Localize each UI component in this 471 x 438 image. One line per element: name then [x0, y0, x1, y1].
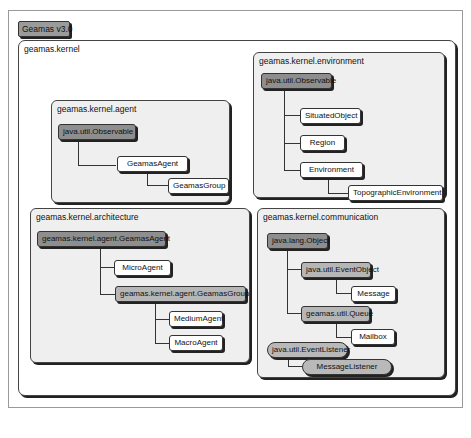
class-node[interactable]: geamas.kernel.agent.GeamasGroup: [115, 286, 246, 302]
inheritance-line: [100, 294, 115, 295]
package-title: geamas.kernel.communication: [263, 212, 378, 222]
inheritance-line: [147, 185, 168, 186]
package-communication: geamas.kernel.communication java.lang.Ob…: [257, 208, 445, 378]
class-node[interactable]: TopographicEnvironment: [348, 185, 443, 201]
inheritance-line: [328, 193, 348, 194]
class-node[interactable]: geamas.util.Queue: [301, 306, 370, 322]
inheritance-line: [336, 293, 351, 294]
interface-node[interactable]: MessageListener: [302, 359, 392, 375]
class-node[interactable]: GeamasGroup: [168, 178, 229, 194]
inheritance-line: [284, 115, 300, 116]
inheritance-line: [284, 89, 285, 171]
class-node[interactable]: java.util.EventObject: [301, 262, 371, 278]
inheritance-line: [288, 366, 302, 367]
inheritance-line: [155, 343, 169, 344]
inheritance-line: [284, 170, 300, 171]
inheritance-line: [284, 143, 300, 144]
inheritance-line: [287, 269, 301, 270]
package-title: geamas.kernel.environment: [259, 56, 364, 66]
inheritance-line: [100, 267, 114, 268]
package-architecture: geamas.kernel.architecture geamas.kernel…: [30, 208, 250, 363]
package-title: geamas.kernel.agent: [57, 104, 136, 114]
package-title: geamas.kernel: [24, 44, 80, 54]
inheritance-line: [78, 165, 116, 166]
interface-node[interactable]: java.util.EventListener: [267, 342, 348, 358]
inheritance-line: [336, 337, 351, 338]
inheritance-line: [287, 247, 288, 314]
inheritance-line: [78, 138, 79, 165]
class-node[interactable]: MediumAgent: [169, 311, 223, 327]
class-node[interactable]: java.util.Observable: [261, 73, 332, 89]
package-environment: geamas.kernel.environment java.util.Obse…: [253, 52, 445, 198]
inheritance-line: [155, 319, 169, 320]
class-node[interactable]: Region: [300, 135, 345, 151]
package-title: geamas.kernel.architecture: [36, 212, 139, 222]
inheritance-line: [287, 313, 301, 314]
class-node[interactable]: GeamasAgent: [117, 156, 188, 172]
class-node[interactable]: Mailbox: [351, 329, 395, 345]
class-node[interactable]: SituatedObject: [300, 108, 361, 124]
inheritance-line: [328, 177, 329, 194]
class-node[interactable]: java.util.Observable: [58, 124, 136, 140]
inheritance-line: [100, 246, 101, 294]
diagram-title: Geamas v3.0: [18, 21, 70, 37]
inheritance-line: [155, 302, 156, 344]
package-agent: geamas.kernel.agent java.util.Observable…: [51, 100, 230, 203]
class-node[interactable]: java.lang.Object: [267, 233, 328, 249]
class-node[interactable]: MicroAgent: [114, 260, 171, 276]
class-node[interactable]: Environment: [300, 162, 363, 178]
class-node[interactable]: geamas.kernel.agent.GeamasAgent: [37, 231, 166, 247]
inheritance-line: [336, 277, 337, 293]
inheritance-line: [336, 321, 337, 337]
class-node[interactable]: MacroAgent: [169, 335, 223, 351]
class-node[interactable]: Message: [351, 286, 396, 302]
